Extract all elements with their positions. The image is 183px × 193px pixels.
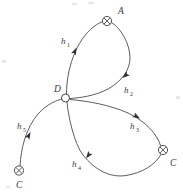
edge-path-h1 xyxy=(66,22,103,96)
edge-label-h3-base: h xyxy=(130,121,135,131)
edge-label-h3-sub: 3 xyxy=(136,127,139,133)
edge-label-h2: h 2 xyxy=(124,85,133,97)
path-diagram-figure: A D C C h 1 h 2 h 3 h 4 h 5 xyxy=(0,0,183,193)
edge-label-h4: h 4 xyxy=(72,159,81,171)
arrowhead-h2 xyxy=(121,71,130,80)
edges-group xyxy=(20,22,161,176)
edge-label-h3: h 3 xyxy=(130,121,139,133)
node-label-C-left: C xyxy=(16,180,23,190)
edge-label-h5-base: h xyxy=(17,121,22,131)
node-label-A: A xyxy=(117,6,124,16)
edge-label-h5-sub: 5 xyxy=(23,127,26,133)
node-C-right[interactable] xyxy=(158,145,167,154)
graph-canvas: A D C C h 1 h 2 h 3 h 4 h 5 xyxy=(0,0,183,193)
edge-label-h1-sub: 1 xyxy=(67,42,70,48)
arrowheads-group xyxy=(25,46,142,160)
arrowhead-h1 xyxy=(71,46,79,55)
edge-path-h3 xyxy=(70,100,161,146)
edge-label-h4-base: h xyxy=(72,159,77,169)
arrowhead-h4 xyxy=(84,151,93,160)
node-A[interactable] xyxy=(102,16,111,25)
node-label-C-right: C xyxy=(170,158,177,168)
edge-label-h5: h 5 xyxy=(17,121,26,133)
edge-path-h5 xyxy=(20,99,62,166)
edge-label-h2-base: h xyxy=(124,85,129,95)
edge-label-h4-sub: 4 xyxy=(78,165,81,171)
edge-label-h2-sub: 2 xyxy=(130,91,133,97)
node-C-left[interactable] xyxy=(14,166,23,175)
node-label-D: D xyxy=(53,84,61,94)
edge-label-h1-base: h xyxy=(61,36,66,46)
edge-path-h4 xyxy=(67,102,161,176)
edge-label-h1: h 1 xyxy=(61,36,70,48)
edge-path-h2 xyxy=(70,23,130,99)
node-D[interactable] xyxy=(62,94,70,102)
